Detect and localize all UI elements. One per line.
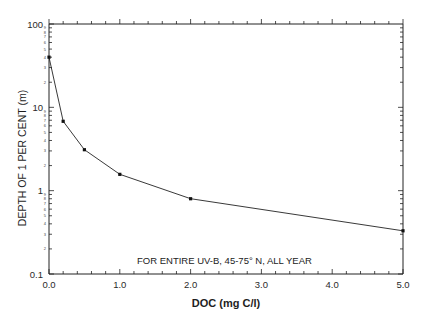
x-axis-title: DOC (mg C/l) xyxy=(192,297,261,309)
x-tick-label: 1.0 xyxy=(113,279,126,290)
svg-text:3: 3 xyxy=(44,232,47,237)
data-point-marker xyxy=(83,148,86,151)
svg-text:6: 6 xyxy=(44,207,47,212)
svg-text:8: 8 xyxy=(44,196,47,201)
series-line xyxy=(49,57,403,231)
x-tick-label: 4.0 xyxy=(326,279,339,290)
data-point-marker xyxy=(401,229,404,232)
svg-text:2: 2 xyxy=(44,163,47,168)
data-point-marker xyxy=(62,120,65,123)
svg-text:6: 6 xyxy=(44,123,47,128)
svg-text:5: 5 xyxy=(44,130,47,135)
svg-text:2: 2 xyxy=(44,80,47,85)
plot-frame xyxy=(49,24,403,274)
y-tick-label: 100 xyxy=(27,19,43,30)
svg-text:7: 7 xyxy=(44,201,47,206)
y-tick-label: 1 xyxy=(38,185,43,196)
svg-text:4: 4 xyxy=(44,138,47,143)
y-tick-label: 10 xyxy=(32,102,43,113)
data-series xyxy=(47,56,404,233)
y-axis-title: DEPTH OF 1 PER CENT (m) xyxy=(16,90,28,226)
svg-text:7: 7 xyxy=(44,34,47,39)
svg-text:2: 2 xyxy=(44,246,47,251)
data-point-marker xyxy=(47,56,50,59)
svg-text:3: 3 xyxy=(44,65,47,70)
x-tick-label: 0.0 xyxy=(42,279,55,290)
x-tick-label: 5.0 xyxy=(396,279,409,290)
svg-text:3: 3 xyxy=(44,148,47,153)
x-axis-ticks: 0.01.02.03.04.05.0 xyxy=(42,19,409,290)
svg-text:9: 9 xyxy=(44,109,47,114)
y-tick-label: 0.1 xyxy=(30,269,43,280)
svg-text:5: 5 xyxy=(44,213,47,218)
svg-text:4: 4 xyxy=(44,221,47,226)
x-tick-label: 2.0 xyxy=(184,279,197,290)
svg-text:5: 5 xyxy=(44,47,47,52)
annotation: FOR ENTIRE UV-B, 45-75° N, ALL YEAR xyxy=(137,255,312,266)
svg-text:4: 4 xyxy=(44,55,47,60)
svg-text:9: 9 xyxy=(44,25,47,30)
svg-text:9: 9 xyxy=(44,192,47,197)
data-point-marker xyxy=(189,197,192,200)
x-tick-label: 3.0 xyxy=(255,279,268,290)
svg-text:6: 6 xyxy=(44,40,47,45)
svg-text:8: 8 xyxy=(44,113,47,118)
chart: 0.01.02.03.04.05.0 234567892345678923456… xyxy=(0,0,424,320)
data-point-marker xyxy=(118,173,121,176)
svg-text:7: 7 xyxy=(44,118,47,123)
